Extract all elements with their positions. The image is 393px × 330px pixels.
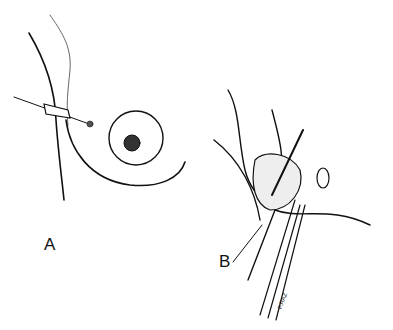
panel-b-label: B bbox=[219, 252, 230, 272]
medical-illustration: A B P.RAZ bbox=[0, 0, 393, 330]
panel-a-syringe-hub bbox=[44, 104, 70, 118]
illustration-drawing bbox=[0, 0, 393, 330]
panel-a-nipple bbox=[124, 135, 140, 151]
panel-b-lump-right bbox=[317, 168, 329, 188]
panel-a-label: A bbox=[44, 235, 55, 255]
panel-b-forceps-1 bbox=[248, 210, 275, 280]
panel-a-lesion bbox=[87, 121, 93, 127]
panel-b-tissue bbox=[253, 154, 301, 210]
panel-b-forceps-2 bbox=[260, 200, 295, 315]
panel-a-breast-fold bbox=[66, 120, 185, 186]
